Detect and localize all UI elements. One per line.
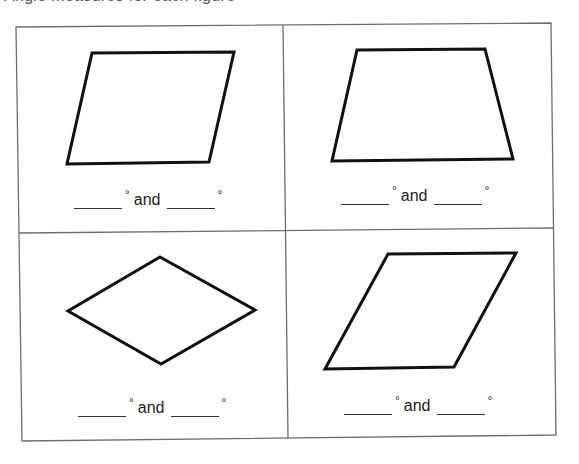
angle-blank-2[interactable] — [434, 187, 482, 205]
angle-answer-label-top-right: ° and ° — [340, 187, 493, 205]
angle-blank-1[interactable] — [78, 399, 126, 417]
angle-answer-label-bottom-left: ° and ° — [77, 399, 230, 417]
angle-blank-2[interactable] — [171, 399, 219, 417]
angle-blank-1[interactable] — [74, 191, 122, 209]
connector-text: and — [404, 397, 431, 415]
shape-trapezoid-top-right — [332, 49, 513, 161]
shape-parallelogram-top-left — [67, 52, 234, 164]
shape-rhombus-bottom-left — [68, 257, 255, 364]
degree-symbol: ° — [488, 394, 493, 408]
degree-symbol: ° — [222, 396, 227, 410]
degree-symbol: ° — [125, 188, 130, 202]
degree-symbol: ° — [218, 188, 223, 202]
degree-symbol: ° — [485, 184, 490, 198]
degree-symbol: ° — [392, 184, 397, 198]
shape-parallelogram-bottom-right — [325, 253, 516, 369]
angle-answer-label-top-left: ° and ° — [73, 191, 226, 209]
grid-horizontal-divider — [19, 228, 554, 233]
connector-text: and — [138, 399, 165, 417]
angle-answer-label-bottom-right: ° and ° — [343, 397, 496, 415]
angle-blank-2[interactable] — [167, 191, 215, 209]
connector-text: and — [134, 191, 161, 209]
angle-blank-1[interactable] — [344, 397, 392, 415]
grid-vertical-divider — [283, 25, 288, 438]
angle-blank-2[interactable] — [437, 397, 485, 415]
angle-blank-1[interactable] — [341, 187, 389, 205]
degree-symbol: ° — [395, 394, 400, 408]
connector-text: and — [401, 187, 428, 205]
degree-symbol: ° — [129, 396, 134, 410]
